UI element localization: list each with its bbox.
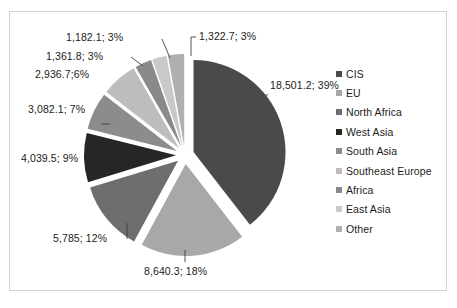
legend-swatch-icon [336, 206, 342, 212]
legend-item-label: North Africa [346, 106, 402, 118]
leader-line-other [191, 37, 196, 56]
legend-swatch-icon [336, 148, 342, 154]
legend-item-africa[interactable]: Africa [336, 180, 448, 199]
legend-swatch-icon [336, 71, 342, 77]
legend-swatch-icon [336, 90, 342, 96]
legend-item-cis[interactable]: CIS [336, 64, 448, 83]
chart-legend: CISEUNorth AfricaWest AsiaSouth AsiaSout… [336, 64, 448, 239]
legend-swatch-icon [336, 187, 342, 193]
data-label-cis: 18,501.2; 39% [270, 79, 339, 91]
legend-item-eu[interactable]: EU [336, 83, 448, 102]
legend-item-north-africa[interactable]: North Africa [336, 103, 448, 122]
legend-item-east-asia[interactable]: East Asia [336, 200, 448, 219]
data-label-southeast-europe: 2,936.7;6% [35, 68, 89, 80]
legend-item-other[interactable]: Other [336, 219, 448, 238]
leader-line-africa [131, 57, 143, 66]
legend-swatch-icon [336, 226, 342, 232]
data-label-west-asia: 4,039.5; 9% [21, 152, 78, 164]
pie-slice-group [84, 54, 286, 256]
legend-item-south-asia[interactable]: South Asia [336, 142, 448, 161]
legend-item-label: CIS [346, 68, 364, 80]
legend-swatch-icon [336, 109, 342, 115]
data-label-east-asia: 1,182.1; 3% [66, 31, 123, 43]
leader-line-east-asia [162, 39, 170, 58]
legend-item-label: East Asia [346, 203, 391, 215]
data-label-north-africa: 5,785; 12% [53, 232, 107, 244]
legend-item-label: Southeast Europe [346, 165, 432, 177]
legend-item-label: EU [346, 87, 361, 99]
data-label-eu: 8,640.3; 18% [144, 265, 207, 277]
data-label-south-asia: 3,082.1; 7% [28, 103, 85, 115]
legend-swatch-icon [336, 129, 342, 135]
data-label-other: 1,322.7; 3% [199, 30, 256, 42]
legend-item-label: South Asia [346, 145, 397, 157]
legend-item-label: West Asia [346, 126, 393, 138]
legend-item-west-asia[interactable]: West Asia [336, 122, 448, 141]
legend-item-southeast-europe[interactable]: Southeast Europe [336, 161, 448, 180]
legend-item-label: Other [346, 223, 373, 235]
legend-swatch-icon [336, 168, 342, 174]
data-label-africa: 1,361.8; 3% [46, 50, 103, 62]
legend-item-label: Africa [346, 184, 373, 196]
